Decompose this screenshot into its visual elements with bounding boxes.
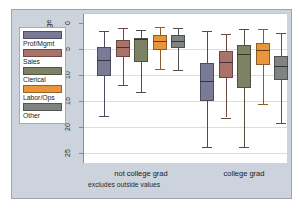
- legend-item[interactable]: Other: [23, 103, 62, 120]
- median-line: [256, 50, 270, 51]
- whisker-lower: [226, 78, 227, 117]
- whisker-upper: [281, 33, 282, 55]
- legend-item[interactable]: Prof/Mgmt: [23, 31, 62, 48]
- legend-swatch: [23, 85, 62, 93]
- whisker-lower: [141, 62, 142, 92]
- whisker-lower: [178, 48, 179, 70]
- whisker-upper: [244, 29, 245, 46]
- whisker-upper: [207, 31, 208, 62]
- gridline: [84, 75, 287, 76]
- whisker-upper: [141, 30, 142, 38]
- legend: Prof/MgmtSalesClericalLabor/OpsOther: [19, 27, 66, 124]
- legend-item-label: Prof/Mgmt: [23, 39, 62, 48]
- x-axis-group-label: not college grad: [101, 169, 181, 178]
- legend-item-label: Sales: [23, 57, 62, 66]
- median-line: [200, 81, 214, 82]
- whisker-cap-upper: [99, 31, 109, 32]
- boxplot-box[interactable]: [256, 43, 270, 65]
- boxplot-box[interactable]: [153, 35, 167, 50]
- boxplot-box[interactable]: [237, 45, 251, 88]
- legend-swatch: [23, 103, 62, 111]
- y-axis-tick-label: 25: [60, 149, 76, 157]
- y-axis-tick: [79, 101, 83, 102]
- whisker-cap-upper: [173, 28, 183, 29]
- y-axis-tick-label-text: 25: [64, 145, 72, 161]
- boxplot-box[interactable]: [97, 47, 111, 77]
- whisker-upper: [263, 29, 264, 43]
- boxplot-box[interactable]: [219, 51, 233, 79]
- whisker-lower: [160, 50, 161, 70]
- legend-swatch: [23, 67, 62, 75]
- whisker-lower: [207, 101, 208, 146]
- whisker-cap-lower: [99, 116, 109, 117]
- y-axis-tick: [79, 127, 83, 128]
- whisker-lower: [123, 57, 124, 85]
- boxplot-box[interactable]: [200, 63, 214, 102]
- whisker-cap-upper: [136, 30, 146, 31]
- whisker-cap-upper: [258, 29, 268, 30]
- median-line: [134, 39, 148, 40]
- whisker-cap-lower: [155, 69, 165, 70]
- whisker-lower: [263, 65, 264, 104]
- whisker-cap-lower: [136, 92, 146, 93]
- y-axis-tick-label: 0: [60, 19, 76, 27]
- whisker-cap-lower: [118, 85, 128, 86]
- median-line: [171, 41, 185, 42]
- whisker-lower: [104, 76, 105, 116]
- whisker-upper: [123, 28, 124, 40]
- whisker-cap-lower: [173, 70, 183, 71]
- whisker-cap-upper: [118, 28, 128, 29]
- median-line: [237, 54, 251, 55]
- plot-canvas: [83, 13, 287, 163]
- y-axis-tick: [79, 153, 83, 154]
- whisker-cap-lower: [276, 123, 286, 124]
- whisker-upper: [178, 28, 179, 35]
- y-axis-tick-label: 20: [60, 123, 76, 131]
- whisker-upper: [226, 34, 227, 51]
- legend-item-label: Clerical: [23, 75, 62, 84]
- gridline: [84, 101, 287, 102]
- whisker-upper: [160, 27, 161, 35]
- y-axis-tick: [79, 49, 83, 50]
- whisker-lower: [281, 80, 282, 123]
- legend-swatch: [23, 31, 62, 39]
- legend-item-label: Other: [23, 111, 62, 120]
- y-axis-tick: [79, 23, 83, 24]
- legend-item[interactable]: Sales: [23, 49, 62, 66]
- whisker-cap-lower: [221, 118, 231, 119]
- gridline: [84, 127, 287, 128]
- whisker-upper: [104, 31, 105, 47]
- legend-item-label: Labor/Ops: [23, 93, 62, 102]
- whisker-cap-upper: [276, 33, 286, 34]
- whisker-lower: [244, 88, 245, 147]
- gridline: [84, 153, 287, 154]
- boxplot-box[interactable]: [274, 56, 288, 80]
- whisker-cap-upper: [221, 34, 231, 35]
- whisker-cap-upper: [155, 27, 165, 28]
- whisker-cap-lower: [202, 147, 212, 148]
- median-line: [97, 60, 111, 61]
- median-line: [274, 66, 288, 67]
- boxplot-box[interactable]: [116, 40, 130, 57]
- legend-swatch: [23, 49, 62, 57]
- median-line: [153, 41, 167, 42]
- whisker-cap-upper: [239, 29, 249, 30]
- plot-top-rule: [83, 13, 287, 14]
- chart-figure: 0510152025 hourly wage Prof/MgmtSalesCle…: [0, 0, 302, 208]
- median-line: [116, 47, 130, 48]
- median-line: [219, 62, 233, 63]
- legend-item[interactable]: Clerical: [23, 67, 62, 84]
- whisker-cap-lower: [258, 104, 268, 105]
- whisker-cap-upper: [202, 31, 212, 32]
- legend-item[interactable]: Labor/Ops: [23, 85, 62, 102]
- y-axis-tick: [79, 75, 83, 76]
- boxplot-box[interactable]: [134, 38, 148, 61]
- x-axis-group-label: college grad: [204, 169, 284, 178]
- whisker-cap-lower: [239, 147, 249, 148]
- footnote: excludes outside values: [88, 181, 160, 188]
